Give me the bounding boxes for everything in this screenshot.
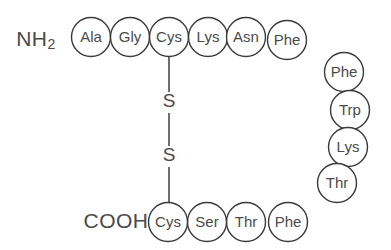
residue-phe-right[interactable]: Phe	[325, 53, 364, 92]
residue-label: Lys	[197, 28, 220, 45]
residue-label: Phe	[331, 63, 358, 80]
residue-gly[interactable]: Gly	[111, 18, 150, 57]
residue-label: Thr	[235, 213, 258, 230]
residue-label: Phe	[274, 31, 301, 48]
residue-thr-right[interactable]: Thr	[318, 164, 357, 203]
residue-cys-n[interactable]: Cys	[150, 18, 189, 57]
residue-cys-c[interactable]: Cys	[149, 203, 188, 242]
residue-asn[interactable]: Asn	[227, 18, 266, 57]
residue-label: Lys	[337, 138, 360, 155]
residue-label: Cys	[155, 213, 181, 230]
n-terminus-subscript: 2	[48, 36, 56, 52]
residue-label: Ser	[195, 213, 218, 230]
c-terminus-label: COOH	[84, 209, 149, 232]
residue-label: Trp	[339, 101, 361, 118]
sulfur-atom-lower: S	[163, 144, 176, 165]
residue-ala[interactable]: Ala	[72, 18, 111, 57]
residue-label: Cys	[156, 28, 182, 45]
peptide-diagram-canvas: NH2 COOH S S Ala Gly Cys Lys	[0, 0, 391, 250]
residue-ser[interactable]: Ser	[188, 203, 227, 242]
residue-label: Ala	[80, 28, 102, 45]
n-terminus-label: NH2	[16, 27, 56, 52]
n-terminus-text: NH	[16, 27, 47, 50]
residue-phe-top[interactable]: Phe	[268, 21, 307, 60]
residue-label: Thr	[326, 174, 349, 191]
residue-lys-right[interactable]: Lys	[329, 128, 368, 167]
residue-phe-bottom[interactable]: Phe	[269, 203, 308, 242]
peptide-diagram: NH2 COOH S S Ala Gly Cys Lys	[0, 0, 391, 250]
residue-trp[interactable]: Trp	[331, 91, 370, 130]
sulfur-atom-upper: S	[163, 90, 176, 111]
residue-lys-top[interactable]: Lys	[189, 18, 228, 57]
disulfide-bond: S S	[163, 57, 176, 202]
residue-label: Asn	[233, 28, 259, 45]
residue-label: Gly	[119, 28, 142, 45]
residue-thr-bottom[interactable]: Thr	[227, 203, 266, 242]
residue-label: Phe	[275, 213, 302, 230]
